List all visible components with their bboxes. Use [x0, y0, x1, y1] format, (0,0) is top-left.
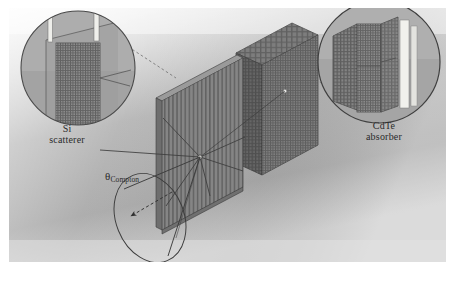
compton-angle-label: θCompton	[105, 170, 139, 184]
readout-strip-left	[48, 16, 53, 42]
figure-canvas: Si scatterer CdTe absorber θCompton	[0, 0, 454, 282]
si-scatterer-label: Si scatterer	[24, 123, 110, 145]
cdte-substrate-bar	[400, 20, 409, 108]
cdte-absorber-label: CdTe absorber	[338, 120, 430, 142]
si-label-line2: scatterer	[24, 134, 110, 145]
si-label-line1: Si	[24, 123, 110, 134]
cdte-absorber-magnifier	[318, 1, 440, 123]
cdte-label-line1: CdTe	[338, 120, 430, 131]
cdte-substrate-bar-2	[411, 26, 417, 106]
readout-strip-right	[94, 11, 99, 41]
theta-subscript: Compton	[110, 175, 139, 184]
cdte-label-line2: absorber	[338, 131, 430, 142]
